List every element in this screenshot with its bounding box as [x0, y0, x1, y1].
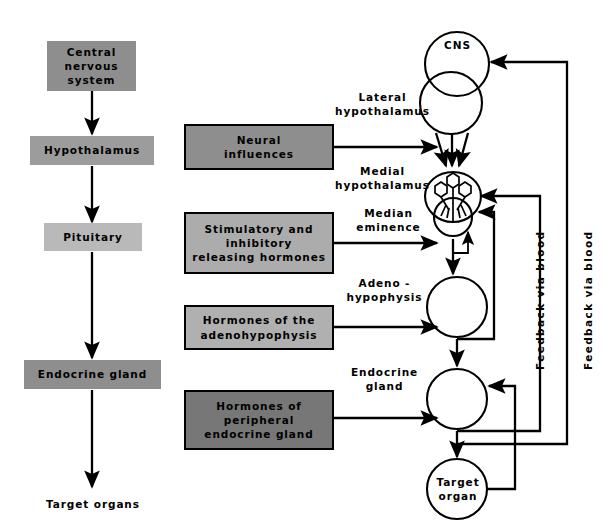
structure-label-lateral-hypothalamus: Lateral hypothalamus — [330, 91, 435, 118]
feedback-label-inner: Feedback via blood — [534, 231, 546, 370]
structure-label-cns: CNS — [430, 39, 485, 53]
feedback-inner-loop — [457, 196, 540, 431]
left-node-endocrine-gland: Endocrine gland — [24, 360, 161, 389]
input-box-releasing-hormones-label: Stimulatory and inhibitory releasing hor… — [192, 222, 326, 265]
left-node-pituitary: Pituitary — [44, 223, 142, 251]
structure-label-target-organ: Target organ — [428, 476, 488, 503]
left-node-pituitary-label: Pituitary — [63, 230, 123, 244]
left-node-hypothalamus-label: Hypothalamus — [44, 143, 140, 157]
input-box-peripheral-hormones-label: Hormones of peripheral endocrine gland — [204, 399, 313, 442]
left-node-hypothalamus: Hypothalamus — [30, 136, 154, 165]
input-box-neural-influences-label: Neural influences — [224, 133, 294, 161]
structure-label-endocrine-gland-right: Endocrine gland — [334, 366, 435, 393]
adenohypophysis-circle — [427, 277, 487, 337]
structure-label-median-eminence: Median eminence — [342, 207, 435, 234]
left-node-cns: Central nervous system — [47, 41, 136, 91]
adenohypophysis-feedback — [457, 212, 494, 339]
input-box-peripheral-hormones: Hormones of peripheral endocrine gland — [184, 390, 334, 450]
target-organ-feedback — [487, 386, 515, 489]
input-box-adenohypophysis-hormones: Hormones of the adenohypophysis — [184, 305, 334, 350]
input-box-releasing-hormones: Stimulatory and inhibitory releasing hor… — [184, 212, 334, 274]
input-box-neural-influences: Neural influences — [184, 124, 334, 170]
feedback-outer-loop — [457, 62, 567, 444]
feedback-label-outer: Feedback via blood — [582, 231, 594, 370]
median-eminence-short-loop — [453, 232, 468, 253]
structure-label-adenohypophysis: Adeno - hypophysis — [334, 277, 435, 304]
endocrine-gland-circle — [427, 369, 487, 429]
diagram-canvas: Central nervous system Hypothalamus Pitu… — [0, 0, 604, 531]
lateral-to-medial-arrows — [436, 133, 468, 166]
left-node-cns-label: Central nervous system — [65, 45, 119, 88]
right-chain-arrows — [453, 239, 457, 457]
input-box-adenohypophysis-hormones-label: Hormones of the adenohypophysis — [201, 313, 318, 341]
left-terminal-target-organs: Target organs — [28, 497, 158, 511]
left-node-endocrine-gland-label: Endocrine gland — [38, 367, 147, 381]
structure-label-medial-hypothalamus: Medial hypothalamus — [330, 165, 435, 192]
